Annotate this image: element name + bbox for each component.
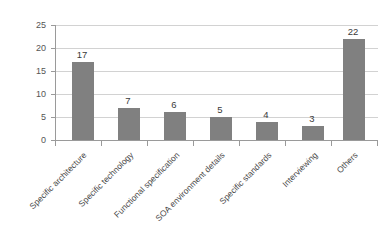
x-axis-label-others: Others xyxy=(334,150,359,175)
bar-others[interactable] xyxy=(343,39,365,140)
value-label-interviewing: 3 xyxy=(297,114,327,124)
x-tick-3 xyxy=(193,140,194,146)
bar-soa-environment-details[interactable] xyxy=(210,117,232,140)
gridline-15 xyxy=(56,71,378,72)
gridline-10 xyxy=(56,94,378,95)
y-axis-label-20: 20 xyxy=(6,44,46,53)
x-axis-line xyxy=(56,140,378,141)
value-label-functional-specification: 6 xyxy=(159,100,189,110)
plot-area xyxy=(55,25,378,140)
value-label-specific-standards: 4 xyxy=(251,110,281,120)
x-tick-0 xyxy=(55,140,56,146)
bar-specific-standards[interactable] xyxy=(256,122,278,140)
y-axis-label-0: 0 xyxy=(6,136,46,145)
x-tick-7 xyxy=(377,140,378,146)
x-tick-4 xyxy=(239,140,240,146)
x-axis-label-specific-standards: Specific standards xyxy=(217,150,273,206)
y-axis-label-5: 5 xyxy=(6,113,46,122)
y-axis-label-15: 15 xyxy=(6,67,46,76)
bar-interviewing[interactable] xyxy=(302,126,324,140)
value-label-specific-technology: 7 xyxy=(113,96,143,106)
y-axis-label-25: 25 xyxy=(6,21,46,30)
x-axis-label-interviewing: Interviewing xyxy=(280,150,319,189)
gridline-25 xyxy=(56,25,378,26)
x-tick-6 xyxy=(331,140,332,146)
bar-functional-specification[interactable] xyxy=(164,112,186,140)
x-tick-2 xyxy=(147,140,148,146)
y-axis-label-10: 10 xyxy=(6,90,46,99)
bar-specific-architecture[interactable] xyxy=(72,62,94,140)
value-label-others: 22 xyxy=(338,27,368,37)
bar-specific-technology[interactable] xyxy=(118,108,140,140)
gridline-20 xyxy=(56,48,378,49)
value-label-specific-architecture: 17 xyxy=(67,50,97,60)
x-tick-5 xyxy=(285,140,286,146)
x-tick-1 xyxy=(101,140,102,146)
bar-chart-figure: 25 20 15 10 5 0 17 7 6 5 4 3 22 Specific… xyxy=(0,0,389,249)
value-label-soa-environment-details: 5 xyxy=(205,105,235,115)
